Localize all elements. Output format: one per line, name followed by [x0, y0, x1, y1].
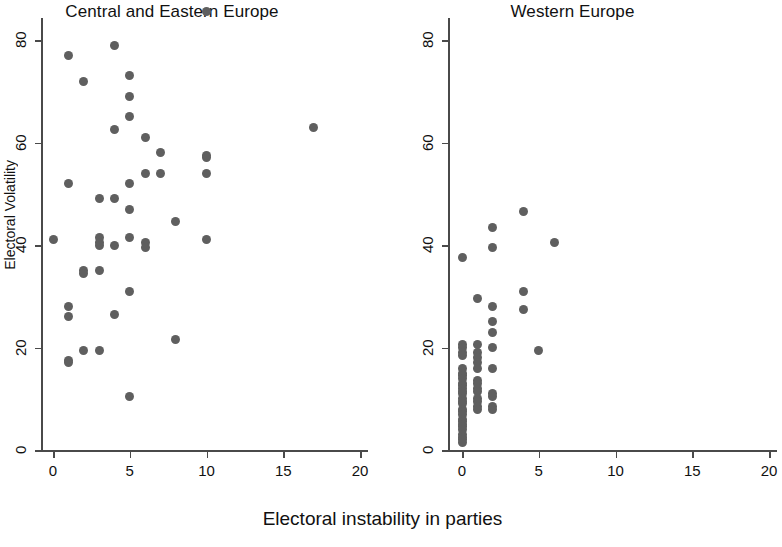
- y-tick-label: 60: [13, 127, 28, 159]
- data-point: [79, 269, 88, 278]
- data-point: [519, 287, 528, 296]
- x-tick-label: 15: [672, 463, 712, 478]
- data-point: [125, 233, 134, 242]
- y-tick-label: 40: [13, 229, 28, 261]
- y-tick: [442, 245, 449, 247]
- data-point: [110, 125, 119, 134]
- x-tick: [207, 451, 209, 458]
- y-tick: [35, 143, 42, 145]
- data-point: [473, 405, 482, 414]
- data-point: [458, 351, 467, 360]
- data-point: [110, 194, 119, 203]
- x-tick-label: 5: [110, 463, 150, 478]
- data-point: [202, 169, 211, 178]
- y-tick: [442, 450, 449, 452]
- data-point: [488, 343, 497, 352]
- data-point: [202, 235, 211, 244]
- x-tick: [539, 451, 541, 458]
- x-tick-label: 15: [263, 463, 303, 478]
- x-axis-line: [41, 450, 368, 452]
- x-tick: [283, 451, 285, 458]
- data-point: [64, 51, 73, 60]
- data-point: [110, 310, 119, 319]
- x-tick-label: 5: [519, 463, 559, 478]
- data-point: [488, 243, 497, 252]
- data-point: [64, 179, 73, 188]
- data-point: [202, 151, 211, 160]
- y-tick: [35, 245, 42, 247]
- data-point: [49, 235, 58, 244]
- data-point: [95, 266, 104, 275]
- data-point: [125, 71, 134, 80]
- data-point: [171, 217, 180, 226]
- data-point: [473, 294, 482, 303]
- data-point: [125, 287, 134, 296]
- x-tick: [462, 451, 464, 458]
- data-point: [64, 302, 73, 311]
- y-tick-label: 80: [13, 24, 28, 56]
- data-point: [156, 169, 165, 178]
- data-point: [141, 133, 150, 142]
- y-tick-label: 40: [420, 229, 435, 261]
- y-tick-label: 0: [13, 434, 28, 466]
- y-tick: [35, 40, 42, 42]
- y-tick-label: 60: [420, 127, 435, 159]
- data-point: [95, 194, 104, 203]
- data-point: [125, 179, 134, 188]
- data-point: [488, 317, 497, 326]
- data-point: [534, 346, 543, 355]
- x-tick: [360, 451, 362, 458]
- data-point: [79, 77, 88, 86]
- data-point: [550, 238, 559, 247]
- data-point: [458, 253, 467, 262]
- y-axis-line: [41, 18, 43, 450]
- panel-title-right: Western Europe: [390, 2, 755, 22]
- x-tick-label: 20: [340, 463, 380, 478]
- data-point: [125, 392, 134, 401]
- x-axis-line: [448, 450, 777, 452]
- data-point: [519, 207, 528, 216]
- x-tick: [130, 451, 132, 458]
- data-point: [125, 205, 134, 214]
- data-point: [79, 346, 88, 355]
- data-point: [309, 123, 318, 132]
- x-axis-title: Electoral instability in parties: [0, 508, 765, 530]
- y-tick-label: 20: [420, 332, 435, 364]
- panel-central-eastern-europe: Central and Eastern Europe 0204060800510…: [0, 0, 400, 500]
- data-point: [110, 41, 119, 50]
- data-point: [125, 112, 134, 121]
- y-tick-label: 0: [420, 434, 435, 466]
- data-point: [171, 335, 180, 344]
- y-tick: [35, 348, 42, 350]
- data-point: [64, 358, 73, 367]
- y-axis-line: [448, 18, 450, 450]
- data-point: [519, 305, 528, 314]
- x-tick: [53, 451, 55, 458]
- x-tick-label: 10: [596, 463, 636, 478]
- y-tick-label: 80: [420, 24, 435, 56]
- x-tick: [616, 451, 618, 458]
- data-point: [110, 241, 119, 250]
- y-tick-label: 20: [13, 332, 28, 364]
- data-point: [141, 243, 150, 252]
- data-point: [488, 302, 497, 311]
- x-tick-label: 20: [749, 463, 782, 478]
- data-point: [125, 92, 134, 101]
- data-point: [156, 148, 165, 157]
- x-tick-label: 0: [442, 463, 482, 478]
- data-point: [64, 312, 73, 321]
- y-tick: [442, 348, 449, 350]
- x-tick-label: 0: [33, 463, 73, 478]
- data-point: [488, 223, 497, 232]
- x-tick: [769, 451, 771, 458]
- data-point: [488, 392, 497, 401]
- panel-title-left: Central and Eastern Europe: [0, 2, 372, 22]
- data-point: [141, 169, 150, 178]
- data-point: [95, 346, 104, 355]
- y-tick: [442, 143, 449, 145]
- data-point: [458, 438, 467, 447]
- data-point: [473, 364, 482, 373]
- data-point: [488, 364, 497, 373]
- data-point: [488, 405, 497, 414]
